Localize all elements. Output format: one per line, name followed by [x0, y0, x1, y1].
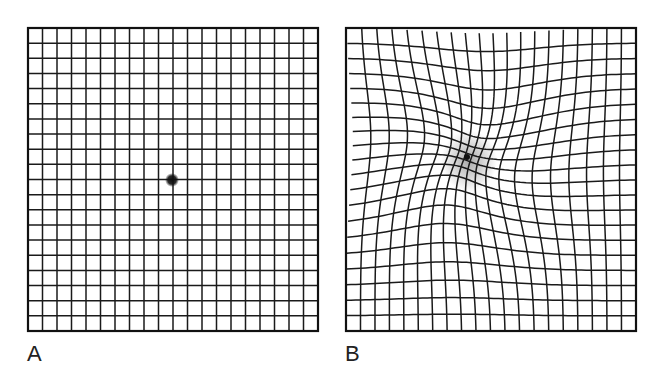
fixation-dot	[464, 154, 470, 160]
grid-line-horizontal	[352, 117, 635, 138]
grid-line-horizontal	[349, 189, 635, 211]
grid-line-vertical	[532, 30, 549, 330]
panel-label-a: A	[27, 343, 42, 365]
grid-line-vertical	[550, 30, 563, 331]
amsler-grid-distorted	[346, 28, 636, 331]
fixation-dot	[165, 173, 179, 187]
grid-line-horizontal	[349, 74, 636, 90]
grid-line-horizontal	[348, 59, 636, 71]
panel-label-b: B	[345, 343, 360, 365]
figure-canvas	[0, 0, 652, 379]
amsler-grid-normal	[28, 28, 318, 331]
grid-line-vertical	[418, 31, 440, 331]
